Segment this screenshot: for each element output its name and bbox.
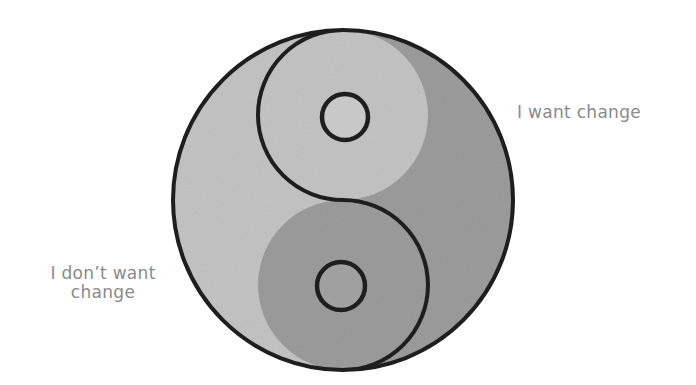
label-dont-want-line2: change <box>34 283 172 302</box>
label-dont-want-line1: I don’t want <box>34 264 172 283</box>
bottom-dot <box>317 262 365 310</box>
label-want-change: I want change <box>517 103 641 122</box>
label-dont-want-change: I don’t want change <box>34 264 172 302</box>
yin-yang-diagram <box>0 0 696 385</box>
top-dot <box>322 94 368 140</box>
